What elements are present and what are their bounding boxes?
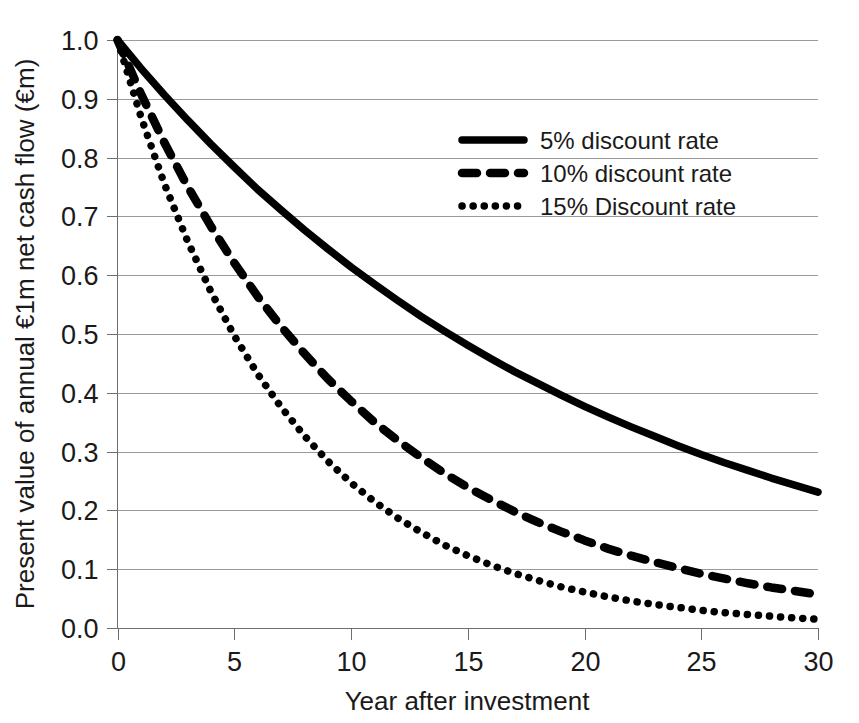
y-tick-label: 0.6 <box>61 261 99 291</box>
y-tick-label: 1.0 <box>61 26 99 56</box>
chart-container: 0.00.10.20.30.40.50.60.70.80.91.0 051015… <box>0 0 859 723</box>
x-tick-label: 0 <box>111 647 126 677</box>
y-tick-label: 0.8 <box>61 144 99 174</box>
x-tick-label: 5 <box>227 647 242 677</box>
y-tick-label: 0.7 <box>61 202 99 232</box>
y-tick-label: 0.3 <box>61 438 99 468</box>
x-tick-label: 10 <box>336 647 366 677</box>
x-tick-label: 20 <box>570 647 600 677</box>
y-tick-label: 0.0 <box>61 614 99 644</box>
y-tick-label: 0.2 <box>61 496 99 526</box>
y-tick-label: 0.9 <box>61 85 99 115</box>
legend-label: 15% Discount rate <box>540 193 736 220</box>
legend: 5% discount rate10% discount rate15% Dis… <box>462 127 736 220</box>
legend-label: 10% discount rate <box>540 160 732 187</box>
y-axis-title: Present value of annual €1m net cash flo… <box>10 59 40 610</box>
x-tick-label: 25 <box>686 647 716 677</box>
chart-background <box>0 0 859 723</box>
legend-label: 5% discount rate <box>540 127 719 154</box>
x-tick-label: 15 <box>453 647 483 677</box>
x-axis-title: Year after investment <box>345 686 591 716</box>
x-tick-label: 30 <box>803 647 833 677</box>
y-tick-label: 0.4 <box>61 379 99 409</box>
y-tick-label: 0.1 <box>61 555 99 585</box>
discount-rate-line-chart: 0.00.10.20.30.40.50.60.70.80.91.0 051015… <box>0 0 859 723</box>
y-tick-label: 0.5 <box>61 320 99 350</box>
